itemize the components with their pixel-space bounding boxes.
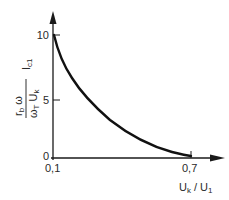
y-label-factor: Ic1 [20,58,34,70]
y-axis-label: rb ω ωT Uk Ic1 [12,58,41,118]
y-label-denominator: ωT Uk [27,89,41,118]
y-tick-label-0: 0 [43,150,49,162]
y-axis-arrow-icon [50,11,57,24]
x-tick-label-01: 0,1 [45,162,60,174]
y-tick-label-5: 5 [43,94,49,106]
x-tick-label-07: 0,7 [182,162,197,174]
chart: 10 5 0 0,1 0,7 Uk / U1 rb ω ωT Uk Ic1 [0,0,229,200]
x-axis-arrow-icon [210,155,225,162]
data-curve [54,35,191,156]
y-tick-label-10: 10 [37,29,49,41]
y-label-numerator: rb ω [12,96,26,116]
x-axis-label: Uk / U1 [179,181,213,195]
